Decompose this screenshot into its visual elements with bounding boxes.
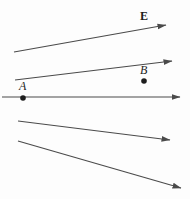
field-line-2 [15, 61, 172, 80]
point-b-dot [141, 78, 147, 84]
field-line-5 [18, 141, 181, 188]
field-line-4 [18, 121, 170, 140]
field-label-e: E [140, 10, 148, 22]
point-a-dot [20, 95, 26, 101]
point-a-label: A [19, 80, 26, 92]
diagram-canvas [0, 0, 190, 199]
field-line-diagram: E A B [0, 0, 190, 199]
point-b-label: B [140, 64, 147, 76]
field-line-1 [14, 25, 166, 52]
